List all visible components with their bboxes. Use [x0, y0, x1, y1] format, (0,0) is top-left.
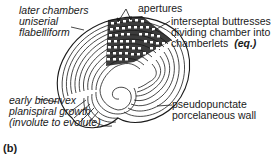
label-eq-tag: (eq.) — [234, 37, 256, 49]
label-interseptal-buttresses: interseptal buttresses dividing chamber … — [171, 16, 271, 49]
label-apertures: apertures — [138, 3, 182, 14]
label-early-growth: early biconvex planispiral growth (invol… — [9, 95, 101, 128]
panel-label: (b) — [3, 142, 17, 154]
label-later-chambers: later chambers uniserial flabelliform — [19, 5, 88, 38]
label-wall: pseudopunctate porcelaneous wall — [172, 99, 256, 121]
